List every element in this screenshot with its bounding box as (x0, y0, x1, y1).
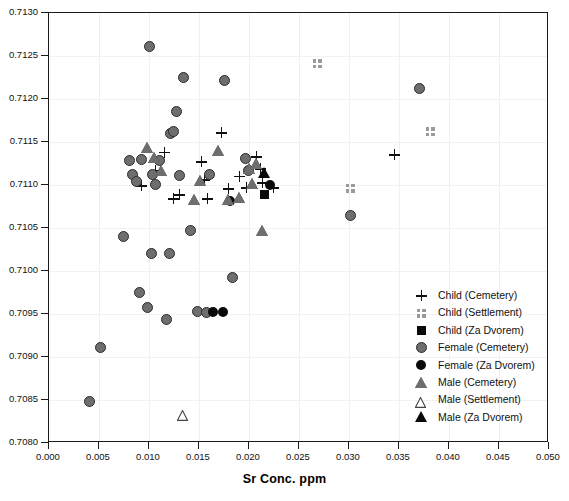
marker-gray-circle-icon (150, 179, 161, 190)
marker-open-triangle-icon (177, 407, 188, 418)
y-axis-tick-label: 0.7085 (0, 394, 38, 404)
scatter-chart-figure: 0.70800.70850.70900.70950.71000.71050.71… (0, 0, 569, 501)
x-axis-tick (48, 442, 49, 449)
legend-item-label: Male (Za Dvorem) (438, 410, 523, 424)
legend-item-label: Male (Cemetery) (438, 375, 516, 389)
x-axis-tick (398, 442, 399, 449)
gridline-horizontal (49, 99, 547, 100)
marker-gray-circle-icon (178, 72, 189, 83)
marker-plus-icon (196, 156, 207, 167)
legend-item[interactable]: Male (Settlement) (416, 391, 544, 408)
marker-gray-circle-icon (142, 302, 153, 313)
marker-gray-circle-icon (161, 314, 172, 325)
marker-filled-square-icon (417, 326, 426, 335)
y-axis-tick-label: 0.7115 (0, 136, 38, 146)
marker-gray-triangle-icon (148, 152, 160, 163)
x-axis-tick-label: 0.050 (525, 451, 569, 462)
marker-gray-circle-icon (414, 83, 425, 94)
marker-gray-circle-icon (164, 248, 175, 259)
legend-item[interactable]: Male (Za Dvorem) (416, 409, 544, 426)
legend-item[interactable]: Child (Settlement) (416, 304, 544, 321)
marker-gray-triangle-icon (233, 192, 245, 203)
marker-checkered-square-icon (313, 59, 322, 68)
y-axis-tick-label: 0.7090 (0, 351, 38, 361)
marker-plus-icon (174, 189, 185, 200)
marker-filled-square-icon (260, 190, 269, 199)
marker-gray-circle-icon (185, 225, 196, 236)
legend-item-label: Female (Za Dvorem) (438, 358, 535, 372)
marker-gray-circle-icon (416, 342, 427, 353)
marker-gray-circle-icon (345, 210, 356, 221)
y-axis-tick-label: 0.7125 (0, 50, 38, 60)
gridline-vertical (199, 13, 200, 441)
y-axis-tick (41, 98, 48, 99)
x-axis-tick (148, 442, 149, 449)
y-axis-tick-label: 0.7110 (0, 179, 38, 189)
marker-gray-circle-icon (168, 126, 179, 137)
x-axis-tick-label: 0.040 (425, 451, 471, 462)
gridline-horizontal (49, 271, 547, 272)
y-axis-tick (41, 442, 48, 443)
gridline-vertical (99, 13, 100, 441)
marker-checkered-square-icon (346, 184, 355, 193)
gridline-horizontal (49, 142, 547, 143)
x-axis-tick-label: 0.020 (225, 451, 271, 462)
marker-plus-icon (416, 290, 427, 301)
marker-black-circle-icon (416, 360, 426, 370)
marker-gray-triangle-icon (256, 225, 268, 236)
y-axis-tick (41, 399, 48, 400)
marker-checkered-square-icon (426, 127, 435, 136)
gridline-horizontal (49, 56, 547, 57)
y-axis-tick (41, 270, 48, 271)
gridline-horizontal (49, 185, 547, 186)
legend-item[interactable]: Male (Cemetery) (416, 374, 544, 391)
legend-item[interactable]: Female (Za Dvorem) (416, 357, 544, 374)
x-axis-tick-label: 0.000 (25, 451, 71, 462)
marker-gray-circle-icon (124, 155, 135, 166)
x-axis-tick (348, 442, 349, 449)
marker-plus-icon (223, 183, 234, 194)
marker-open-triangle-icon (415, 394, 426, 405)
marker-gray-circle-icon (171, 106, 182, 117)
legend-item-label: Child (Cemetery) (438, 288, 517, 302)
x-axis-tick-label: 0.025 (275, 451, 321, 462)
x-axis-tick (448, 442, 449, 449)
marker-gray-circle-icon (131, 176, 142, 187)
x-axis-tick-label: 0.035 (375, 451, 421, 462)
marker-black-circle-icon (218, 307, 228, 317)
marker-gray-circle-icon (227, 272, 238, 283)
y-axis-tick-label: 0.7130 (0, 7, 38, 17)
marker-plus-icon (202, 193, 213, 204)
y-axis-tick (41, 55, 48, 56)
y-axis-tick-label: 0.7100 (0, 265, 38, 275)
legend-item[interactable]: Female (Cemetery) (416, 339, 544, 356)
marker-black-triangle-icon (415, 411, 427, 422)
legend-item-label: Male (Settlement) (438, 392, 521, 406)
legend-item[interactable]: Child (Za Dvorem) (416, 322, 544, 339)
marker-gray-triangle-icon (194, 175, 206, 186)
marker-checkered-square-icon (417, 309, 426, 318)
x-axis-tick-label: 0.005 (75, 451, 121, 462)
gridline-vertical (249, 13, 250, 441)
marker-black-circle-icon (208, 307, 218, 317)
marker-gray-circle-icon (174, 170, 185, 181)
legend-item-label: Child (Settlement) (438, 305, 522, 319)
x-axis-tick (248, 442, 249, 449)
marker-gray-triangle-icon (415, 377, 427, 388)
legend-item[interactable]: Child (Cemetery) (416, 287, 544, 304)
legend-item-label: Child (Za Dvorem) (438, 323, 524, 337)
marker-gray-circle-icon (144, 41, 155, 52)
y-axis-tick-label: 0.7105 (0, 222, 38, 232)
y-axis-tick (41, 313, 48, 314)
y-axis-tick (41, 12, 48, 13)
x-axis-tick (198, 442, 199, 449)
gridline-horizontal (49, 228, 547, 229)
gridline-vertical (149, 13, 150, 441)
y-axis-tick-label: 0.7095 (0, 308, 38, 318)
marker-gray-circle-icon (134, 287, 145, 298)
x-axis-tick-label: 0.030 (325, 451, 371, 462)
marker-plus-icon (389, 149, 400, 160)
gridline-vertical (399, 13, 400, 441)
x-axis-tick-label: 0.010 (125, 451, 171, 462)
marker-gray-circle-icon (95, 342, 106, 353)
